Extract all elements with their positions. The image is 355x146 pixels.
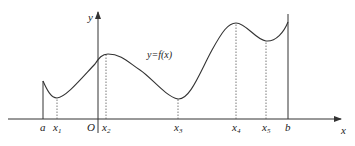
point-label-b: b [285, 121, 291, 133]
point-label-x1: x1 [52, 121, 61, 135]
graph-svg: y x O y=f(x) a x1 x2 x3 x4 x5 b [0, 0, 355, 146]
point-label-x5: x5 [261, 121, 271, 135]
point-label-x3: x3 [173, 121, 183, 135]
point-label-x2: x2 [101, 121, 111, 135]
function-graph: y x O y=f(x) a x1 x2 x3 x4 x5 b [0, 0, 355, 146]
origin-label: O [87, 121, 95, 133]
y-axis-label: y [87, 11, 93, 23]
function-curve [43, 22, 288, 99]
function-label: y=f(x) [146, 49, 173, 61]
x-axis-label: x [340, 124, 346, 136]
point-label-x4: x4 [231, 121, 241, 135]
point-label-a: a [40, 121, 46, 133]
